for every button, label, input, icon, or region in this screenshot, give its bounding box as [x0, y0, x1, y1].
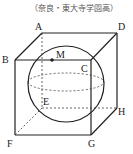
- label-M: M: [56, 49, 65, 60]
- edge-DC: [91, 33, 117, 60]
- edge-AB: [15, 33, 42, 60]
- label-H: H: [118, 106, 125, 117]
- label-C: C: [81, 63, 88, 74]
- label-F: F: [7, 138, 13, 149]
- point-M-dot: [50, 58, 54, 62]
- label-D: D: [118, 21, 125, 32]
- sphere-outline: [28, 46, 104, 122]
- label-G: G: [88, 138, 95, 149]
- label-B: B: [2, 54, 9, 65]
- label-A: A: [35, 21, 43, 32]
- edge-GH: [91, 108, 117, 135]
- edge-EF: [15, 108, 42, 135]
- sphere-equator-front: [28, 82, 104, 91]
- label-E: E: [43, 96, 49, 107]
- sphere-equator-back: [28, 73, 104, 82]
- source-caption: （奈良・東大寺学園高）: [30, 3, 118, 13]
- cube-sphere-diagram: （奈良・東大寺学園高） A D B M C E H F G: [0, 0, 133, 154]
